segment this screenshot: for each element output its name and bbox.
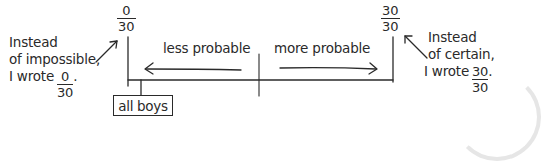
page-corner-curl xyxy=(453,73,541,161)
right-note-line2: of certain, xyxy=(428,46,495,63)
less-probable-arrow xyxy=(146,69,241,70)
right-end-numerator: 30 xyxy=(381,4,400,17)
left-note-suffix: . xyxy=(73,68,77,84)
more-probable-arrow xyxy=(280,68,376,69)
all-boys-label: all boys xyxy=(118,98,168,114)
right-note: Instead of certain, I wrote 30 30 . xyxy=(428,29,495,80)
left-end-fraction: 0 30 xyxy=(117,4,136,33)
left-end-numerator: 0 xyxy=(121,4,131,17)
left-note-fraction: 0 30 xyxy=(57,70,73,99)
left-note-line3: I wrote 0 30 . xyxy=(9,68,100,85)
left-note: Instead of impossible, I wrote 0 30 . xyxy=(9,34,100,85)
more-probable-label: more probable xyxy=(274,40,370,56)
left-note-denominator: 30 xyxy=(57,86,73,99)
left-note-line2: of impossible, xyxy=(9,51,100,68)
right-end-fraction: 30 30 xyxy=(381,4,400,33)
less-probable-label: less probable xyxy=(163,40,250,56)
right-pointer-arrow xyxy=(405,36,427,58)
left-note-numerator: 0 xyxy=(61,70,69,83)
all-boys-box: all boys xyxy=(113,95,173,116)
left-note-prefix: I wrote xyxy=(9,68,54,84)
left-end-denominator: 30 xyxy=(117,20,136,33)
left-note-line1: Instead xyxy=(9,34,100,51)
right-end-denominator: 30 xyxy=(381,20,400,33)
right-note-line1: Instead xyxy=(428,29,495,46)
right-note-prefix: I wrote xyxy=(424,63,469,79)
